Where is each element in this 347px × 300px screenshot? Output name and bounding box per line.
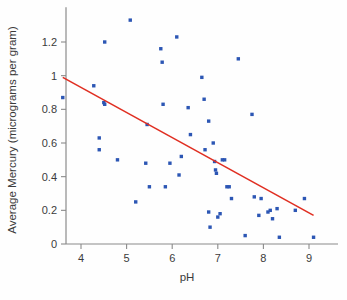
y-tick-label-0.6: 0.6	[42, 137, 57, 149]
y-tick-label-0.4: 0.4	[42, 171, 57, 183]
data-point	[218, 212, 221, 215]
data-point	[253, 195, 256, 198]
data-point	[271, 217, 274, 220]
data-point	[228, 185, 231, 188]
data-point	[186, 106, 189, 109]
data-point	[269, 209, 272, 212]
data-point	[159, 47, 162, 50]
x-tick-label-9: 9	[306, 252, 312, 264]
data-point	[207, 210, 210, 213]
y-tick-label-0: 0	[51, 238, 57, 250]
data-point	[203, 148, 206, 151]
data-point	[257, 214, 260, 217]
least-squares-line	[63, 77, 314, 215]
data-point	[116, 158, 119, 161]
data-point	[208, 225, 211, 228]
x-tick-label-5: 5	[124, 252, 130, 264]
data-point	[303, 197, 306, 200]
y-tick-label-1.2: 1.2	[42, 36, 57, 48]
data-point	[103, 40, 106, 43]
data-point	[161, 103, 164, 106]
data-points	[61, 18, 315, 239]
x-tick-label-8: 8	[260, 252, 266, 264]
y-axis-title: Average Mercury (micrograms per gram)	[6, 26, 18, 234]
data-point	[230, 197, 233, 200]
x-axis: 456789	[66, 244, 338, 264]
data-point	[92, 84, 95, 87]
data-point	[175, 35, 178, 38]
scatter-plot-figure: 00.20.40.60.811.2 456789 pH Average Merc…	[0, 0, 347, 300]
data-point	[134, 200, 137, 203]
data-point	[144, 162, 147, 165]
y-tick-label-0.2: 0.2	[42, 204, 57, 216]
data-point	[237, 57, 240, 60]
y-tick-label-1: 1	[51, 70, 57, 82]
x-tick-label-7: 7	[215, 252, 221, 264]
data-point	[216, 215, 219, 218]
x-tick-label-4: 4	[78, 252, 84, 264]
data-point	[278, 236, 281, 239]
plot-canvas: 00.20.40.60.811.2 456789 pH Average Merc…	[0, 0, 347, 300]
data-point	[243, 234, 246, 237]
data-point	[61, 96, 64, 99]
data-point	[215, 172, 218, 175]
data-point	[212, 141, 215, 144]
data-point	[98, 148, 101, 151]
data-point	[164, 185, 167, 188]
regression-line	[63, 77, 314, 215]
y-axis: 00.20.40.60.811.2	[42, 7, 66, 250]
data-point	[189, 133, 192, 136]
data-point	[180, 155, 183, 158]
data-point	[223, 158, 226, 161]
data-point	[129, 18, 132, 21]
data-point	[200, 76, 203, 79]
data-point	[202, 98, 205, 101]
data-point	[214, 168, 217, 171]
data-point	[160, 61, 163, 64]
data-point	[312, 236, 315, 239]
data-point	[259, 197, 262, 200]
data-point	[177, 173, 180, 176]
data-point	[207, 119, 210, 122]
data-point	[103, 103, 106, 106]
data-point	[294, 209, 297, 212]
data-point	[168, 162, 171, 165]
data-point	[275, 207, 278, 210]
data-point	[250, 113, 253, 116]
data-point	[98, 136, 101, 139]
x-tick-label-6: 6	[169, 252, 175, 264]
data-point	[148, 185, 151, 188]
x-axis-title: pH	[180, 271, 195, 283]
y-tick-label-0.8: 0.8	[42, 103, 57, 115]
